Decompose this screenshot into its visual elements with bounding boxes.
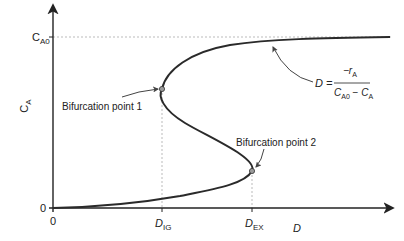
steady-state-curve bbox=[53, 37, 390, 208]
bifurcation-2-label: Bifurcation point 2 bbox=[236, 137, 316, 148]
x-axis-label: D bbox=[293, 222, 301, 234]
bifurcation-2-arrow bbox=[256, 149, 264, 167]
rate-equation: D = −rA CA0 − CA bbox=[315, 65, 373, 100]
y-tick-zero: 0 bbox=[40, 202, 46, 214]
bifurcation-point-2-marker bbox=[249, 168, 254, 173]
svg-text:D =: D = bbox=[315, 77, 333, 89]
x-tick-dex: DEX bbox=[245, 217, 264, 232]
y-axis-label: CA bbox=[18, 99, 33, 113]
svg-text:−rA: −rA bbox=[343, 65, 357, 78]
svg-text:CA0 − CA: CA0 − CA bbox=[334, 87, 373, 100]
bifurcation-point-1-marker bbox=[159, 86, 164, 91]
equation-arrow bbox=[273, 47, 313, 82]
y-tick-ca0: CA0 bbox=[32, 31, 50, 46]
bifurcation-diagram: CA CA0 0 0 DIG DEX D Bifurcation point 1… bbox=[0, 0, 404, 241]
x-tick-zero: 0 bbox=[50, 215, 56, 227]
x-tick-dig: DIG bbox=[155, 217, 171, 232]
bifurcation-1-arrow bbox=[122, 89, 158, 97]
bifurcation-1-label: Bifurcation point 1 bbox=[62, 101, 142, 112]
